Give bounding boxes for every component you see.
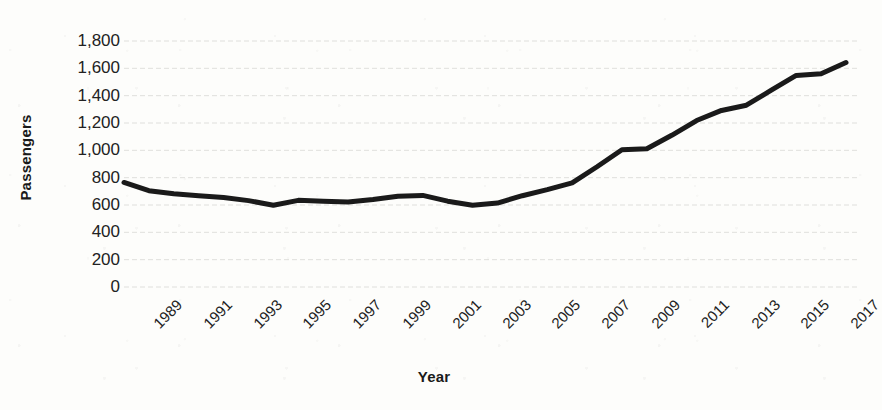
x-tick-label: 1989: [150, 296, 186, 332]
x-tick-label: 1993: [249, 296, 285, 332]
x-tick-label: 2017: [847, 296, 882, 332]
x-tick-label: 1997: [349, 296, 385, 332]
x-tick-label: 2013: [747, 296, 783, 332]
x-tick-label: 2009: [648, 296, 684, 332]
x-axis-title-label: Year: [418, 368, 451, 385]
x-axis-title: Year: [0, 368, 868, 385]
x-tick-label: 2005: [548, 296, 584, 332]
x-tick-label: 2001: [449, 296, 485, 332]
x-tick-label: 2003: [498, 296, 534, 332]
x-tick-label: 1991: [200, 296, 236, 332]
x-tick-label: 2011: [697, 296, 732, 331]
x-tick-label: 1999: [399, 296, 435, 332]
x-tick-label: 2007: [598, 296, 634, 332]
x-tick-label: 2015: [797, 296, 833, 332]
x-tick-label: 1995: [299, 296, 335, 332]
